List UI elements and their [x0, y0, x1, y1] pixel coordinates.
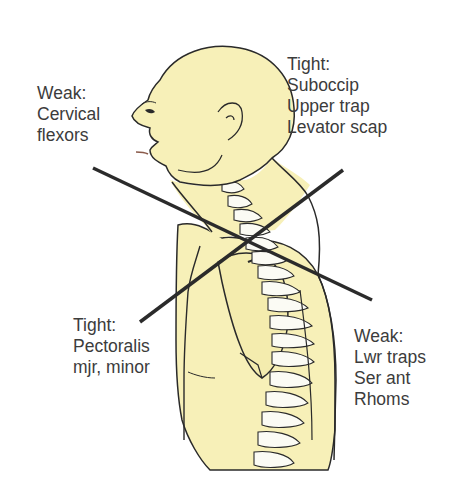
label-line: flexors [37, 125, 100, 146]
upper-crossed-syndrome-illustration [0, 0, 460, 499]
label-weak-cervical-flexors: Weak: Cervical flexors [37, 83, 100, 146]
label-line: Cervical [37, 104, 100, 125]
label-line: Pectoralis [73, 336, 150, 357]
label-heading: Weak: [37, 83, 100, 104]
label-line: Levator scap [287, 117, 387, 138]
label-line: Upper trap [287, 96, 387, 117]
label-line: Rhoms [354, 389, 426, 410]
label-tight-upper-muscles: Tight: Suboccip Upper trap Levator scap [287, 54, 387, 138]
label-heading: Weak: [354, 326, 426, 347]
label-line: Lwr traps [354, 347, 426, 368]
label-line: Suboccip [287, 75, 387, 96]
label-tight-pectoralis: Tight: Pectoralis mjr, minor [73, 315, 150, 378]
label-line: mjr, minor [73, 357, 150, 378]
label-line: Ser ant [354, 368, 426, 389]
label-heading: Tight: [287, 54, 387, 75]
label-heading: Tight: [73, 315, 150, 336]
label-weak-lower-muscles: Weak: Lwr traps Ser ant Rhoms [354, 326, 426, 410]
body-silhouette [170, 158, 336, 470]
